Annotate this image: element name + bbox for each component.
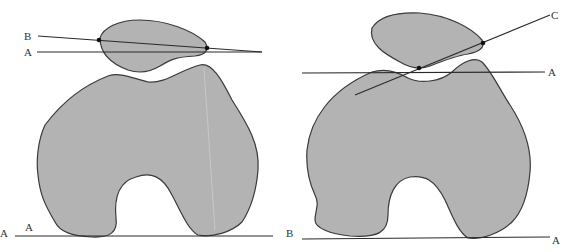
left-dot-lateral <box>205 46 210 51</box>
right-label-baseline-a: A <box>552 234 560 246</box>
right-patella <box>371 13 483 68</box>
right-dot-lateral <box>481 41 486 46</box>
left-label-baseline-a-inner: A <box>25 221 33 233</box>
right-label-a-upper: A <box>548 66 556 78</box>
right-label-baseline-b: B <box>286 227 293 239</box>
left-femur <box>37 65 258 237</box>
right-femur <box>307 60 531 239</box>
left-label-baseline-a-outer: A <box>0 227 8 239</box>
left-label-a-upper: A <box>24 46 32 58</box>
right-figure: C A B A <box>286 9 560 246</box>
left-dot-medial <box>97 38 102 43</box>
right-label-c: C <box>551 9 558 21</box>
left-figure: B A A A <box>0 20 273 239</box>
left-label-b: B <box>24 30 31 42</box>
right-line-a-upper <box>302 72 545 73</box>
knee-diagram: B A A A C A B A <box>0 0 566 252</box>
right-baseline <box>302 237 550 239</box>
left-patella <box>100 20 207 72</box>
right-dot-medial <box>417 66 422 71</box>
